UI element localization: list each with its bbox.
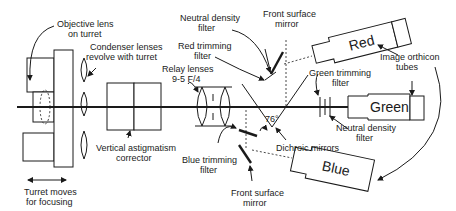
front-surface-mirror-top-label: Front surface xyxy=(263,9,316,19)
turret-moves-label: Turret moves xyxy=(24,187,77,197)
astigmatism-corrector xyxy=(100,83,170,130)
svg-text:filter: filter xyxy=(356,133,373,143)
front-surface-mirror-top xyxy=(271,52,283,74)
image-orthicon-label: Image orthicon xyxy=(380,52,440,62)
relay-lenses-label: Relay lenses xyxy=(162,64,214,74)
svg-text:filter: filter xyxy=(194,51,211,61)
svg-text:filter: filter xyxy=(200,165,217,175)
svg-text:revolve with turret: revolve with turret xyxy=(86,52,158,62)
green-tube: Green xyxy=(330,94,424,120)
red-trimming-label: Red trimming xyxy=(178,41,232,51)
turret xyxy=(17,50,74,167)
blue-trimming-filter-icon xyxy=(239,130,257,136)
svg-text:tubes: tubes xyxy=(396,62,419,72)
svg-text:for focusing: for focusing xyxy=(26,197,73,207)
condenser-lenses-label: Condenser lenses xyxy=(90,42,163,52)
dichroic-mirrors-label: Dichroic mirrors xyxy=(276,143,340,153)
condenser-lenses xyxy=(81,58,87,159)
green-label: Green xyxy=(370,99,409,115)
svg-text:on turret: on turret xyxy=(68,29,102,39)
svg-text:mirror: mirror xyxy=(243,198,267,208)
objective-lens-label: Objective lens xyxy=(57,19,114,29)
svg-text:filter: filter xyxy=(198,23,215,33)
neutral-density-right-label: Neutral density xyxy=(336,123,397,133)
front-surface-mirror-bottom-label: Front surface xyxy=(231,188,284,198)
svg-text:mirror: mirror xyxy=(275,19,299,29)
svg-text:corrector: corrector xyxy=(116,153,152,163)
svg-text:9-5 F/4: 9-5 F/4 xyxy=(172,74,201,84)
svg-text:filter: filter xyxy=(332,78,349,88)
green-trimming-label: Green trimming xyxy=(309,68,371,78)
astigmatism-label: Vertical astigmatism xyxy=(96,143,176,153)
optical-diagram: Green Red Blue Objective lens on turret xyxy=(0,0,456,211)
neutral-density-top-label: Neutral density xyxy=(180,13,241,23)
blue-trimming-label: Blue trimming xyxy=(182,155,237,165)
angle-label: 76° xyxy=(265,114,279,124)
red-path xyxy=(265,52,312,80)
front-surface-mirror-bottom xyxy=(239,145,251,163)
